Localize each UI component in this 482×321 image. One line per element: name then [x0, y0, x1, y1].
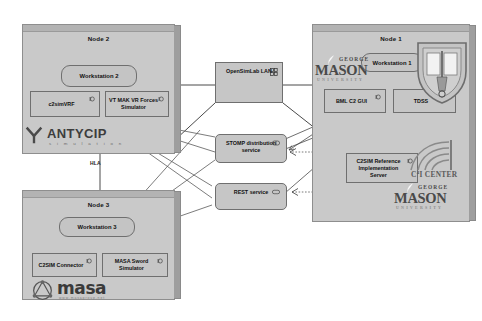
masa-wordmark: masa: [57, 278, 106, 298]
workstation-label: Workstation 3: [78, 224, 117, 230]
panel-bevel-right: [174, 191, 181, 299]
opensimlab-lan-box[interactable]: OpenSimLab LAN: [215, 62, 283, 103]
lan-label: OpenSimLab LAN: [226, 68, 272, 75]
component-label: c2simVRF: [48, 101, 74, 108]
workstation-node2[interactable]: Workstation 2: [61, 65, 137, 87]
gmu-logo-bottom: GEORGE MASON UNIVERSITY: [393, 183, 473, 217]
gmu-shield-emblem: [413, 39, 471, 105]
component-c2simvrf[interactable]: c2simVRF: [30, 91, 100, 117]
node-title-node2: Node 2: [23, 35, 174, 42]
panel-bevel-top: [23, 191, 174, 198]
component-icon: [157, 258, 163, 264]
masa-mark-icon: [31, 279, 54, 302]
shield-icon: [413, 39, 471, 105]
rest-service-box[interactable]: REST service: [215, 183, 287, 210]
masa-logo: masa www.masagroup.net: [31, 279, 161, 303]
component-icon: [375, 94, 381, 100]
node-panel-node2: Node 2 Workstation 2 c2simVRF VT MAK VR …: [22, 24, 175, 154]
c4i-wordmark: C4I CENTER: [411, 170, 457, 179]
panel-bevel-top: [23, 25, 174, 32]
workstation-label: Workstation 2: [80, 73, 119, 79]
component-icon: [86, 258, 92, 264]
component-label: MASA Sword Simulator: [106, 258, 157, 272]
component-vt-mak-vr-forces[interactable]: VT MAK VR Forces Simulator: [105, 91, 169, 117]
component-label: C2SIM Connector: [39, 262, 84, 269]
interface-icon: [272, 189, 280, 195]
network-icon: [270, 68, 278, 76]
hla-edge-label: HLA: [90, 160, 101, 166]
gmu-university-text: UNIVERSITY: [396, 206, 443, 210]
c4i-arcs-icon: [407, 140, 457, 172]
component-icon: [89, 96, 95, 102]
component-label: C2SIM Reference Implementation Server: [350, 158, 407, 179]
node-panel-node3: Node 3 Workstation 3 C2SIM Connector MAS…: [22, 190, 175, 300]
node-title-node3: Node 3: [23, 201, 174, 208]
antycip-mark-icon: [23, 124, 45, 146]
stomp-distribution-service-box[interactable]: STOMP distribution service: [215, 134, 287, 163]
component-masa-sword-simulator[interactable]: MASA Sword Simulator: [102, 253, 168, 277]
component-bml-c2-gui[interactable]: BML C2 GUI: [324, 89, 386, 113]
gmu-mason-text: MASON: [394, 191, 446, 206]
antycip-tagline: s i m u l a t i o n: [49, 141, 123, 146]
component-label: VT MAK VR Forces Simulator: [109, 97, 158, 111]
component-c2sim-connector[interactable]: C2SIM Connector: [32, 253, 97, 277]
panel-bevel-top: [313, 25, 469, 32]
antycip-logo: ANTYCIP s i m u l a t i o n: [19, 122, 139, 152]
c4i-rest-text: I CENTER: [419, 170, 457, 179]
masa-url: www.masagroup.net: [59, 296, 105, 300]
panel-bevel-right: [174, 25, 181, 153]
c4i-center-logo: C4I CENTER: [413, 140, 475, 182]
gmu-mason-text: MASON: [315, 63, 367, 78]
component-icon: [158, 96, 164, 102]
antycip-wordmark: ANTYCIP: [47, 126, 107, 141]
feedback-arrowheads: [290, 149, 298, 196]
interface-icon: [272, 140, 280, 146]
node-panel-node1: Node 1 Workstation 1 BML C2 GUI TDSS C2S…: [312, 24, 470, 222]
component-label: BML C2 GUI: [336, 98, 367, 105]
gmu-university-text: UNIVERSITY: [317, 78, 364, 82]
rest-label: REST service: [234, 189, 268, 196]
gmu-logo-top: GEORGE MASON UNIVERSITY: [315, 55, 393, 87]
workstation-node3[interactable]: Workstation 3: [59, 217, 135, 237]
